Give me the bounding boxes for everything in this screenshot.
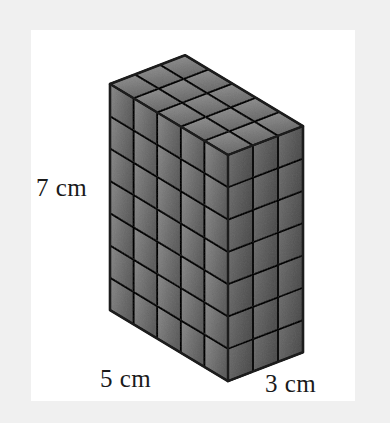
width-dimension-label: 5 cm <box>100 365 151 392</box>
figure-page: 7 cm 5 cm 3 cm <box>0 0 390 423</box>
cube-prism-figure: 7 cm 5 cm 3 cm <box>0 0 390 423</box>
depth-dimension-label: 3 cm <box>265 370 316 397</box>
cube-stack <box>110 55 303 381</box>
height-dimension-label: 7 cm <box>36 174 87 201</box>
